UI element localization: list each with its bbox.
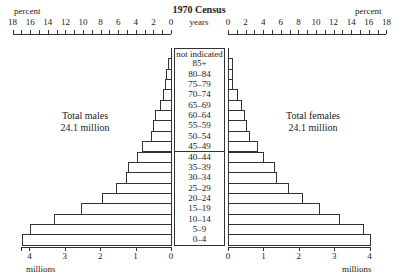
tick [48,30,49,34]
tick [307,30,308,34]
tick [171,30,172,34]
tick-label: 0 [169,17,174,27]
tick-label: 8 [296,17,301,27]
tick-label: 14 [347,17,356,27]
tick [334,30,335,34]
tick [153,30,154,34]
tick [39,30,40,34]
tick-label: 12 [61,17,70,27]
percent-label-left: percent [14,6,40,16]
tick-label: 2 [98,251,103,261]
tick-label: 2 [243,17,248,27]
females-total-value: 24.1 million [268,122,358,134]
axis-line [21,247,172,248]
millions-label-right: millions [342,264,372,274]
females-total-title: Total females [268,110,358,122]
tick-label: 10 [79,17,88,27]
tick [254,30,255,34]
tick [109,30,110,34]
male-bar [22,234,172,245]
males-total-value: 24.1 million [40,122,130,134]
tick [360,30,361,34]
tick [145,30,146,34]
tick-label: 6 [279,17,284,27]
males-total: Total males 24.1 million [40,110,130,134]
tick-label: 4 [261,17,266,27]
tick-label: 18 [382,17,391,27]
tick [246,30,247,34]
tick-label: 2 [297,251,302,261]
tick [272,30,273,34]
tick [316,30,317,34]
tick [118,30,119,34]
tick [298,30,299,34]
tick-label: 4 [367,251,372,261]
tick [228,30,229,34]
males-total-title: Total males [40,110,130,122]
tick [237,30,238,34]
tick [290,30,291,34]
percent-label-right: percent [355,6,381,16]
tick-label: 0 [226,17,231,27]
tick [351,30,352,34]
tick-label: 8 [98,17,103,27]
tick [342,30,343,34]
tick [13,30,14,34]
tick [136,30,137,34]
tick [30,30,31,34]
axis-line [228,34,386,35]
tick-label: 6 [116,17,121,27]
tick [21,247,22,251]
tick [263,30,264,34]
tick [281,30,282,34]
tick [21,30,22,34]
tick-label: 3 [332,251,337,261]
tick [127,30,128,34]
tick-label: 2 [151,17,156,27]
tick [162,30,163,34]
tick-label: 0 [169,251,174,261]
female-bar [228,234,371,245]
chart-title: 1970 Census [172,5,225,15]
tick [378,30,379,34]
females-total: Total females 24.1 million [268,110,358,134]
tick [92,30,93,34]
tick-label: 3 [63,251,68,261]
tick [74,30,75,34]
tick-label: 14 [43,17,52,27]
tick-label: 16 [364,17,373,27]
tick-label: 4 [134,17,139,27]
age-group-label: 0–4 [174,234,225,245]
tick-label: 16 [26,17,35,27]
axis-line [13,34,171,35]
tick-label: 10 [312,17,321,27]
tick-label: 12 [329,17,338,27]
tick-label: 18 [8,17,17,27]
tick [83,30,84,34]
tick [101,30,102,34]
tick [386,30,387,34]
tick [65,30,66,34]
tick [369,30,370,34]
tick [57,30,58,34]
years-label: years [190,17,209,27]
tick-label: 0 [226,251,231,261]
male-zero-line [171,48,172,246]
millions-label-left: millions [26,264,56,274]
tick-label: 1 [261,251,266,261]
tick-label: 4 [27,251,32,261]
tick-label: 1 [133,251,138,261]
female-zero-line [228,48,229,246]
tick [325,30,326,34]
